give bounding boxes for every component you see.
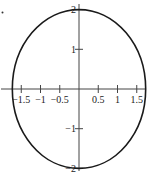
y-tick-label: −1 <box>65 123 76 134</box>
stray-dot <box>2 12 4 14</box>
ellipse-chart: −1.5−1−0.50.511.521−1−2 <box>0 0 147 172</box>
x-tick-label: −1.5 <box>12 94 30 105</box>
y-tick-label: 1 <box>71 44 76 55</box>
x-tick-label: 1.5 <box>131 94 144 105</box>
x-tick-label: 0.5 <box>92 94 105 105</box>
x-tick-label: −0.5 <box>51 94 69 105</box>
x-tick-label: 1 <box>115 94 120 105</box>
x-tick-label: −1 <box>35 94 46 105</box>
